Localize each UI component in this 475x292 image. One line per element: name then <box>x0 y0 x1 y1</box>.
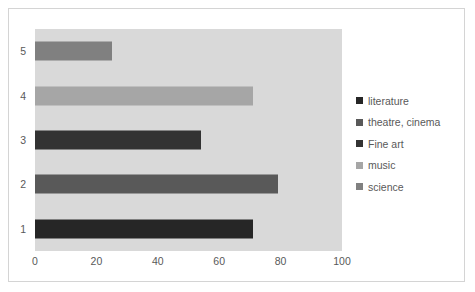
bar-2[interactable] <box>35 175 278 194</box>
legend-label: theatre, cinema <box>368 116 440 128</box>
bar-row <box>35 73 342 117</box>
x-axis-tick-100: 100 <box>333 255 351 267</box>
x-axis-tick-40: 40 <box>152 255 164 267</box>
chart-legend: literaturetheatre, cinemaFine artmusicsc… <box>356 90 460 198</box>
x-axis-tick-60: 60 <box>213 255 225 267</box>
bar-row <box>35 207 342 251</box>
legend-swatch-icon <box>356 140 363 147</box>
legend-swatch-icon <box>356 162 363 169</box>
y-axis: 54321 <box>9 29 31 251</box>
bar-row <box>35 29 342 73</box>
x-axis-tick-0: 0 <box>32 255 38 267</box>
y-axis-tick-4: 4 <box>20 73 26 117</box>
x-axis-tick-20: 20 <box>91 255 103 267</box>
y-axis-tick-2: 2 <box>20 162 26 206</box>
legend-label: science <box>368 181 404 193</box>
bar-1[interactable] <box>35 219 253 238</box>
legend-label: music <box>368 159 395 171</box>
legend-swatch-icon <box>356 97 363 104</box>
legend-item-literature[interactable]: literature <box>356 90 460 112</box>
x-axis-tick-80: 80 <box>275 255 287 267</box>
legend-item-science[interactable]: science <box>356 176 460 198</box>
y-axis-tick-5: 5 <box>20 29 26 73</box>
y-axis-tick-3: 3 <box>20 118 26 162</box>
legend-label: Fine art <box>368 138 404 150</box>
legend-swatch-icon <box>356 119 363 126</box>
bar-row <box>35 118 342 162</box>
bar-5[interactable] <box>35 42 112 61</box>
x-axis: 020406080100 <box>35 255 342 271</box>
bar-3[interactable] <box>35 130 201 149</box>
legend-label: literature <box>368 95 409 107</box>
bar-4[interactable] <box>35 86 253 105</box>
y-axis-tick-1: 1 <box>20 207 26 251</box>
legend-item-music[interactable]: music <box>356 155 460 177</box>
legend-swatch-icon <box>356 183 363 190</box>
chart-frame: 54321 020406080100 literaturetheatre, ci… <box>8 8 465 282</box>
plot-area <box>35 29 342 251</box>
legend-item-fine-art[interactable]: Fine art <box>356 133 460 155</box>
bar-row <box>35 162 342 206</box>
legend-item-theatre-cinema[interactable]: theatre, cinema <box>356 112 460 134</box>
